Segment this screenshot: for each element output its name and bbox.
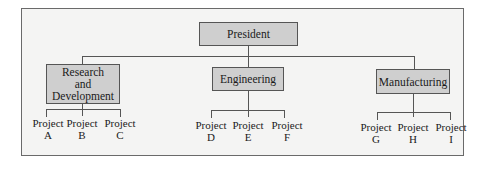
connector	[211, 110, 285, 111]
connector	[414, 56, 415, 69]
connector	[450, 112, 451, 120]
department-box-manufacturing: Manufacturing	[376, 69, 450, 94]
connector	[211, 110, 212, 118]
department-label-line: Research	[62, 66, 104, 78]
connector	[46, 109, 121, 110]
president-label: President	[227, 28, 270, 40]
connector	[248, 91, 249, 117]
connector	[377, 112, 451, 113]
connector	[46, 109, 47, 117]
connector	[82, 56, 83, 64]
department-box-research-development: Research and Development	[46, 64, 120, 104]
department-box-engineering: Engineering	[212, 67, 284, 91]
department-label: Manufacturing	[379, 76, 447, 88]
project-i: ProjectI	[429, 121, 473, 145]
connector	[413, 94, 414, 117]
department-label-line: and	[75, 78, 92, 90]
connector	[377, 112, 378, 120]
connector	[120, 109, 121, 117]
project-e: ProjectE	[226, 119, 270, 143]
connector	[284, 110, 285, 118]
department-label-line: Development	[52, 90, 114, 102]
president-box: President	[199, 22, 298, 46]
connector	[82, 56, 415, 57]
connector	[82, 104, 83, 116]
department-label: Engineering	[220, 73, 276, 85]
project-f: ProjectF	[265, 119, 309, 143]
project-c: ProjectC	[98, 117, 142, 141]
